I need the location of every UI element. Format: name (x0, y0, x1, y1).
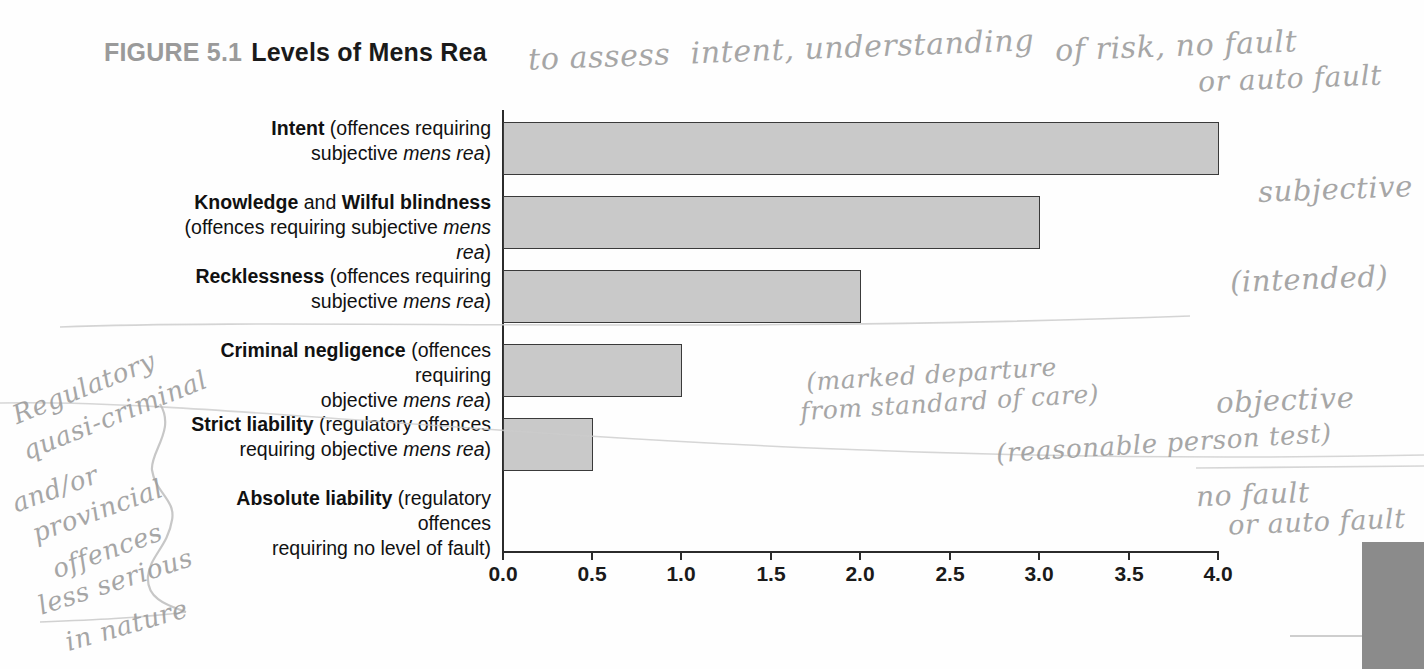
x-tick-1 (591, 551, 593, 560)
x-tick-8 (1217, 551, 1219, 560)
bar-chart: Intent (offences requiring subjective me… (0, 0, 1424, 669)
label-term-strict-liability: Strict liability (191, 413, 313, 435)
category-label-column: Intent (offences requiring subjective me… (160, 110, 492, 550)
x-tick-5 (949, 551, 951, 560)
x-tick-label-2: 1.0 (666, 562, 695, 586)
x-tick-label-4: 2.0 (845, 562, 874, 586)
bar-recklessness (503, 270, 861, 323)
x-tick-3 (770, 551, 772, 560)
y-axis-line (502, 110, 504, 553)
x-tick-label-3: 1.5 (756, 562, 785, 586)
category-label-absolute-liability: Absolute liability (regulatory offences … (161, 486, 491, 561)
label-term-wilful-blindness: Wilful blindness (342, 191, 491, 213)
category-label-strict-liability: Strict liability (regulatory offences re… (161, 412, 491, 462)
label-term-intent: Intent (271, 117, 324, 139)
x-tick-label-1: 0.5 (577, 562, 606, 586)
bar-knowledge (503, 196, 1040, 249)
x-tick-0 (502, 551, 504, 560)
bar-criminal-negligence (503, 344, 682, 397)
x-tick-label-8: 4.0 (1203, 562, 1232, 586)
category-label-criminal-negligence: Criminal negligence (offences requiring … (161, 338, 491, 413)
x-tick-label-0: 0.0 (488, 562, 517, 586)
category-label-knowledge-wilful-blindness: Knowledge and Wilful blindness (offences… (161, 190, 491, 265)
category-label-recklessness: Recklessness (offences requiring subject… (161, 264, 491, 314)
scan-edge-artifact (1362, 542, 1424, 669)
label-term-recklessness: Recklessness (195, 265, 324, 287)
label-term-absolute-liability: Absolute liability (236, 487, 392, 509)
x-tick-7 (1128, 551, 1130, 560)
label-term-criminal-negligence: Criminal negligence (220, 339, 405, 361)
x-tick-4 (859, 551, 861, 560)
bar-strict-liability (503, 418, 593, 471)
x-tick-label-6: 3.0 (1024, 562, 1053, 586)
figure-page: FIGURE 5.1Levels of Mens Rea Intent (off… (0, 0, 1424, 669)
x-tick-label-7: 3.5 (1114, 562, 1143, 586)
x-tick-2 (680, 551, 682, 560)
plot-area: 0.0 0.5 1.0 1.5 2.0 2.5 3.0 3.5 4.0 (502, 110, 1218, 550)
x-tick-label-5: 2.5 (935, 562, 964, 586)
x-tick-6 (1038, 551, 1040, 560)
label-term-knowledge: Knowledge (194, 191, 298, 213)
category-label-intent: Intent (offences requiring subjective me… (161, 116, 491, 166)
bar-intent (503, 122, 1219, 175)
